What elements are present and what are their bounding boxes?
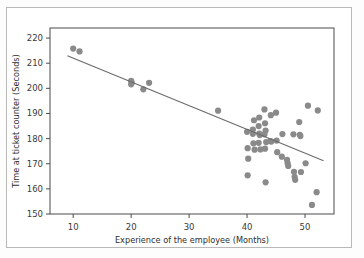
data-point: [261, 106, 267, 112]
x-tick-label: 30: [184, 222, 195, 232]
data-point: [256, 114, 262, 120]
data-point: [251, 117, 257, 123]
y-axis-ticks: 150160170180190200210220: [27, 33, 50, 219]
data-point: [303, 160, 309, 166]
data-point: [296, 119, 302, 125]
x-axis-ticks: 1020304050: [68, 214, 311, 232]
data-point: [279, 131, 285, 137]
data-point: [215, 108, 221, 114]
x-tick-label: 10: [68, 222, 79, 232]
x-tick-label: 20: [126, 222, 137, 232]
data-point: [273, 110, 279, 116]
data-point: [76, 48, 82, 54]
data-point: [146, 80, 152, 86]
data-point: [298, 169, 304, 175]
data-point: [263, 179, 269, 185]
y-tick-label: 180: [27, 134, 43, 144]
data-point: [309, 202, 315, 208]
y-axis-title: Time at ticket counter (Seconds): [11, 54, 21, 189]
data-point: [245, 156, 251, 162]
plot-frame: [50, 28, 334, 214]
data-point: [285, 163, 291, 169]
data-point: [245, 172, 251, 178]
data-point: [314, 189, 320, 195]
x-axis-title: Experience of the employee (Months): [115, 235, 269, 245]
data-point: [245, 145, 251, 151]
data-point: [279, 154, 285, 160]
data-point: [315, 107, 321, 113]
chart-figure: 150160170180190200210220 1020304050 Expe…: [0, 0, 364, 258]
data-point: [290, 131, 296, 137]
scatter-plot: 150160170180190200210220 1020304050 Expe…: [0, 0, 364, 258]
data-point: [297, 133, 303, 139]
data-point: [70, 46, 76, 52]
data-point: [256, 140, 262, 146]
data-point: [274, 149, 280, 155]
x-tick-label: 50: [300, 222, 311, 232]
y-tick-label: 210: [27, 58, 43, 68]
data-point: [292, 177, 298, 183]
data-point: [256, 123, 262, 129]
data-point: [262, 120, 268, 126]
y-tick-label: 190: [27, 108, 43, 118]
y-tick-label: 150: [27, 209, 43, 219]
y-tick-label: 200: [27, 83, 43, 93]
y-tick-label: 160: [27, 184, 43, 194]
data-point: [305, 103, 311, 109]
y-tick-label: 170: [27, 159, 43, 169]
x-tick-label: 40: [242, 222, 253, 232]
data-point: [262, 146, 268, 152]
y-tick-label: 220: [27, 33, 43, 43]
data-point: [251, 147, 257, 153]
